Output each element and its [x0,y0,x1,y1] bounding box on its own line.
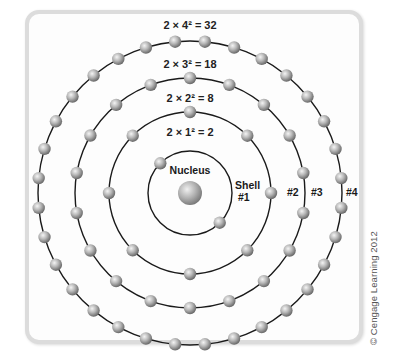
electron [297,167,309,179]
shell-2-label: #2 [287,186,299,198]
electron [38,231,50,243]
electron [280,304,292,316]
shell-1-label-line2: #1 [238,191,250,203]
electron-shell-diagram: Nucleus Shell #1 #2 #3 #4 2 × 1² = 2 2 ×… [0,0,397,352]
electron [71,207,83,219]
electron [258,99,270,111]
electron [66,90,78,102]
electron [38,143,50,155]
electron [87,69,99,81]
electron [127,244,139,256]
electron [214,217,226,229]
electron [256,321,268,333]
electron [169,36,181,48]
electron [112,53,124,65]
electron [258,275,270,287]
electron [145,79,157,91]
shell-3-formula: 2 × 3² = 18 [163,58,216,70]
electron [329,143,341,155]
shell-2-formula: 2 × 2² = 8 [166,92,213,104]
shell-4-label: #4 [346,186,358,198]
electron [318,115,330,127]
shell-1-formula: 2 × 1² = 2 [166,126,213,138]
nucleus-label: Nucleus [170,164,211,176]
electron [84,244,96,256]
electron [103,187,115,199]
copyright-notice: © Cengage Learning 2012 [368,231,379,345]
electron [184,106,196,118]
electron [154,157,166,169]
electron [33,202,45,214]
electron [297,207,309,219]
electron [50,115,62,127]
electron [184,72,196,84]
electron [87,304,99,316]
electron [223,295,235,307]
electron [110,99,122,111]
electron [66,283,78,295]
electron [241,130,253,142]
electron [84,129,96,141]
electron [169,338,181,350]
electron [140,41,152,53]
electron [127,130,139,142]
electron [110,275,122,287]
electron [140,332,152,344]
electron [280,69,292,81]
electron [335,202,347,214]
electron [112,321,124,333]
electron [256,53,268,65]
electron [301,283,313,295]
electron [228,332,240,344]
electron [199,338,211,350]
electron [241,244,253,256]
shell-4-formula: 2 × 4² = 32 [163,19,216,31]
electron [199,36,211,48]
electron [283,244,295,256]
electron [283,129,295,141]
electron [335,172,347,184]
electron [184,302,196,314]
electron [145,295,157,307]
shell-3-label: #3 [311,186,323,198]
electron [71,167,83,179]
electron [318,259,330,271]
electron [50,259,62,271]
electron [301,90,313,102]
electron [265,187,277,199]
electron [223,79,235,91]
electron [228,41,240,53]
electron [33,172,45,184]
electron [329,231,341,243]
electron [184,268,196,280]
shell-1-label-line1: Shell [235,179,260,191]
nucleus-sphere [178,181,202,205]
